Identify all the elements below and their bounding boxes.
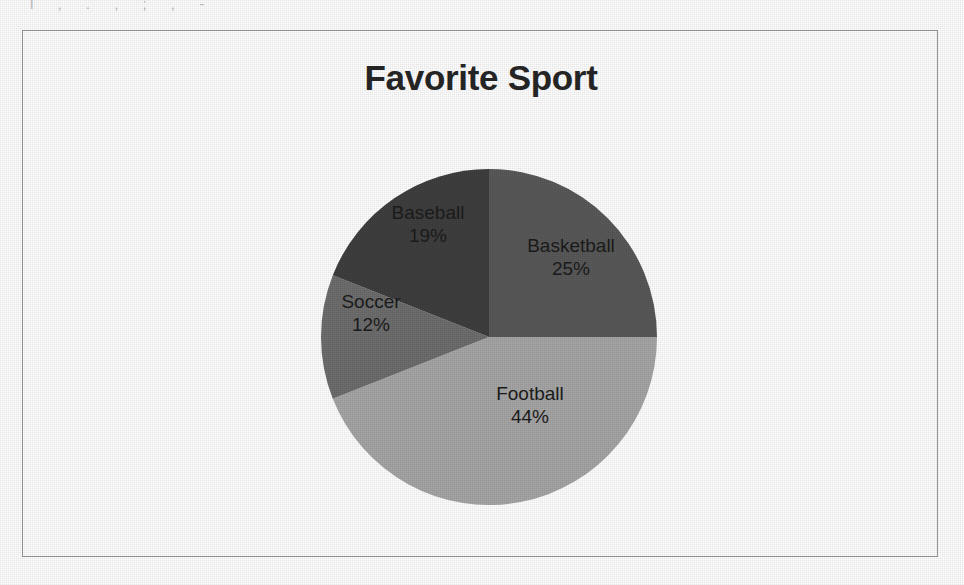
pie-chart: Basketball25%Football44%Soccer12%Basebal… <box>321 169 657 505</box>
chart-frame: Favorite Sport Basketball25%Football44%S… <box>22 30 938 557</box>
pie-slices <box>321 169 657 505</box>
pie-svg <box>321 169 657 505</box>
pie-slice-basketball[interactable] <box>489 169 657 337</box>
top-text-remnant: l , . , ; , - <box>0 0 964 14</box>
chart-title: Favorite Sport <box>23 58 939 98</box>
